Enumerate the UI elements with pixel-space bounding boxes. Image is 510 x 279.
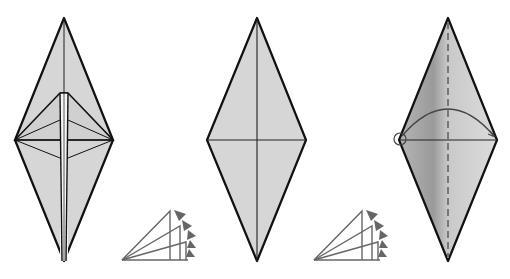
step-3-valley-fold-diamond [394, 18, 497, 261]
repeat-fan-arrow-1 [122, 210, 196, 260]
diagram-canvas [0, 0, 510, 279]
step-2-plain-diamond [207, 18, 306, 261]
step-1-folded-diamond [15, 18, 113, 261]
repeat-fan-arrow-2 [314, 210, 388, 260]
origami-diagram [0, 0, 510, 279]
